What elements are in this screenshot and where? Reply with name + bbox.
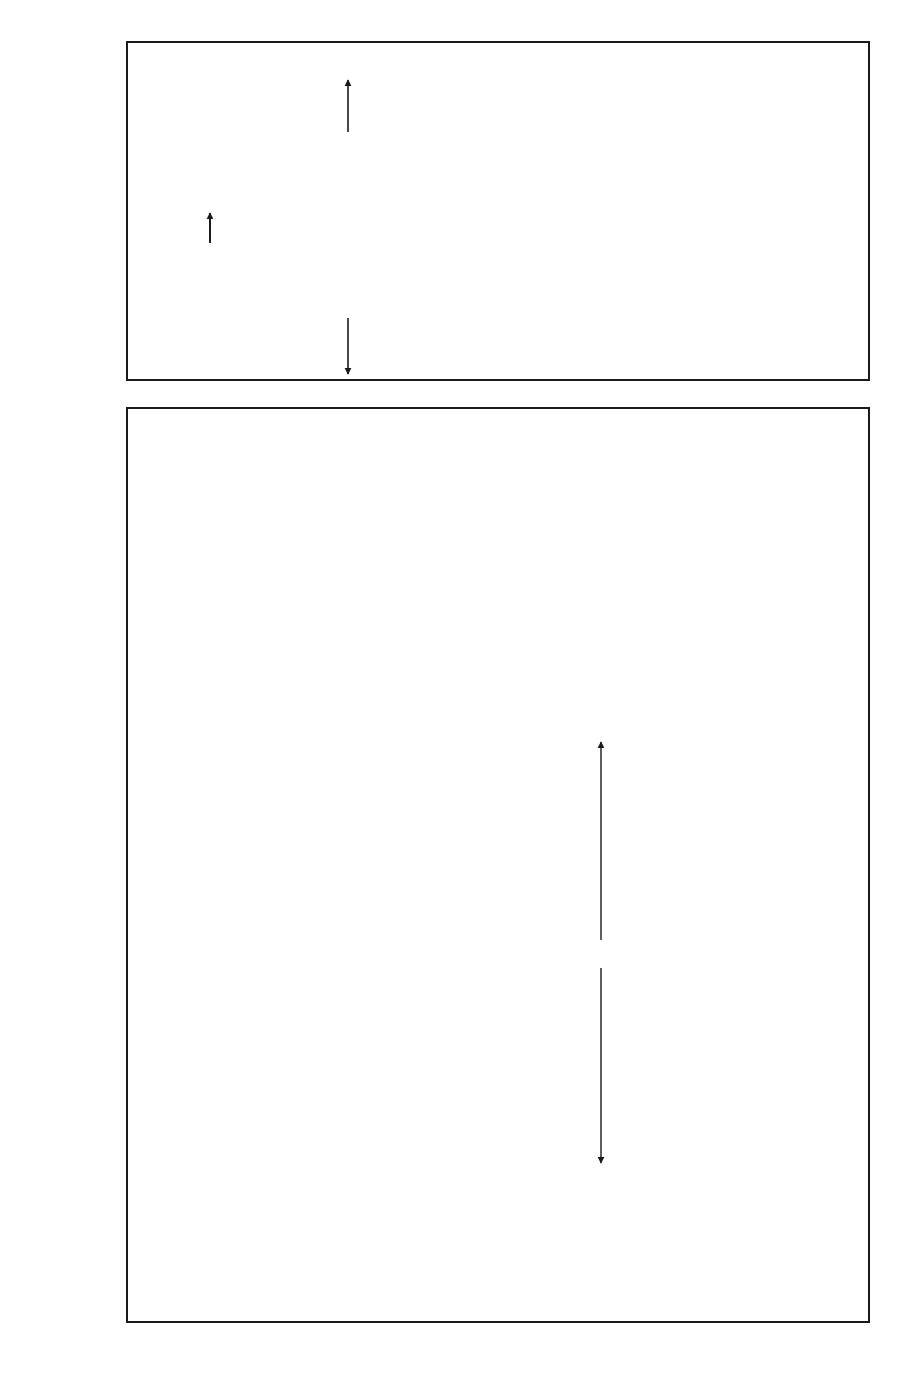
bottom-chart — [0, 0, 869, 1322]
top-chart — [0, 0, 869, 380]
figure — [0, 0, 914, 1399]
top-plot-frame — [127, 42, 869, 380]
bottom-plot-frame — [127, 408, 869, 1322]
